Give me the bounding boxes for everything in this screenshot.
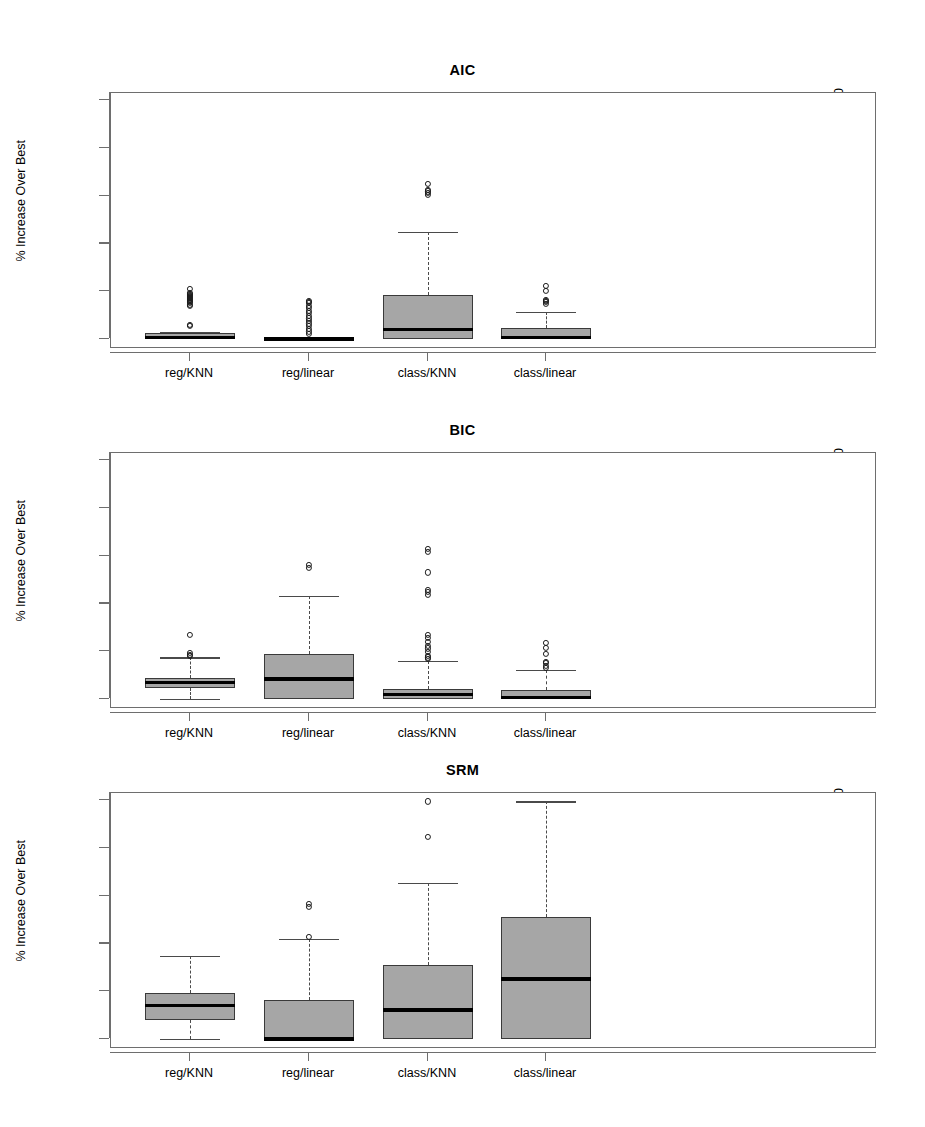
whisker-upper: [546, 801, 547, 916]
y-axis-tick: [99, 555, 109, 556]
chart-panel-bic: BIC% Increase Over Best020406080100reg/K…: [0, 408, 925, 748]
x-axis-tick-label-3: class/linear: [514, 1066, 577, 1080]
x-axis-tick: [545, 712, 546, 721]
panel-title: AIC: [0, 62, 925, 78]
y-axis-tick: [99, 147, 109, 148]
chart-panel-srm: SRM% Increase Over Best020406080100reg/K…: [0, 748, 925, 1088]
plot-area: [110, 452, 876, 708]
x-axis-tick: [545, 1052, 546, 1061]
x-axis-tick: [308, 1052, 309, 1061]
outlier-point: [543, 288, 549, 294]
y-axis-tick: [99, 459, 109, 460]
x-axis-tick-label-2: class/KNN: [398, 366, 456, 380]
y-axis-tick: [99, 1038, 109, 1039]
y-axis-tick: [99, 507, 109, 508]
x-axis-tick-label-0: reg/KNN: [165, 726, 213, 740]
y-axis-label: % Increase Over Best: [14, 500, 28, 622]
y-axis-label: % Increase Over Best: [14, 840, 28, 962]
y-axis-tick: [99, 290, 109, 291]
x-axis-tick-label-0: reg/KNN: [165, 366, 213, 380]
panel-title: SRM: [0, 762, 925, 778]
median-line: [501, 977, 591, 980]
x-axis-tick: [189, 712, 190, 721]
x-axis-tick-label-2: class/KNN: [398, 1066, 456, 1080]
median-line: [501, 336, 591, 339]
y-axis-tick: [99, 602, 109, 603]
chart-panel-aic: AIC% Increase Over Best020406080100reg/K…: [0, 48, 925, 388]
x-axis-tick-label-1: reg/linear: [282, 366, 334, 380]
x-axis-line: [110, 352, 876, 353]
x-axis-tick: [545, 352, 546, 361]
x-axis-tick: [427, 352, 428, 361]
outlier-point: [543, 651, 549, 657]
y-axis-tick: [99, 650, 109, 651]
whisker-upper: [546, 312, 547, 328]
y-axis-tick: [99, 895, 109, 896]
outlier-point: [543, 282, 549, 288]
boxplot-class-linear: [111, 93, 875, 347]
x-axis-tick: [189, 352, 190, 361]
y-axis-tick: [99, 338, 109, 339]
y-axis-label: % Increase Over Best: [14, 140, 28, 262]
y-axis-tick: [99, 990, 109, 991]
whisker-cap-upper: [516, 801, 576, 802]
x-axis-tick-label-1: reg/linear: [282, 726, 334, 740]
y-axis-tick: [99, 799, 109, 800]
x-axis-tick: [308, 712, 309, 721]
boxplot-figure: AIC% Increase Over Best020406080100reg/K…: [0, 0, 925, 1127]
plot-area: [110, 92, 876, 348]
boxplot-class-linear: [111, 453, 875, 707]
y-axis-tick: [99, 195, 109, 196]
y-axis-tick: [99, 942, 109, 943]
x-axis-tick-label-2: class/KNN: [398, 726, 456, 740]
plot-area: [110, 792, 876, 1048]
x-axis-tick: [427, 712, 428, 721]
y-axis-tick: [99, 99, 109, 100]
x-axis-tick-label-1: reg/linear: [282, 1066, 334, 1080]
x-axis-tick-label-3: class/linear: [514, 726, 577, 740]
x-axis-tick: [427, 1052, 428, 1061]
boxplot-class-linear: [111, 793, 875, 1047]
x-axis-tick: [189, 1052, 190, 1061]
whisker-cap-upper: [516, 312, 576, 313]
x-axis-line: [110, 1052, 876, 1053]
x-axis-line: [110, 712, 876, 713]
x-axis-tick: [308, 352, 309, 361]
y-axis-tick: [99, 242, 109, 243]
y-axis-tick: [99, 847, 109, 848]
y-axis-tick: [99, 698, 109, 699]
whisker-upper: [546, 670, 547, 691]
x-axis-tick-label-3: class/linear: [514, 366, 577, 380]
x-axis-tick-label-0: reg/KNN: [165, 1066, 213, 1080]
panel-title: BIC: [0, 422, 925, 438]
median-line: [501, 696, 591, 699]
